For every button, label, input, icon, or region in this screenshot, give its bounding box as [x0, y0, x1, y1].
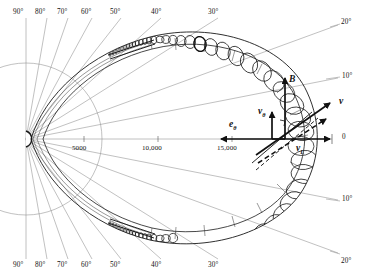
- angle-ray-50-top: [26, 18, 121, 139]
- angle-ray-40-bottom: [26, 139, 161, 259]
- angle-ray-80-bottom: [26, 139, 47, 259]
- angle-label-10-upper-right: 10°: [342, 72, 352, 80]
- angle-ray-70-top: [26, 18, 68, 139]
- bow-shock-polar-diagram: 90° 80° 70° 60° 50° 40° 30° 20° 10° 0 10…: [0, 0, 373, 277]
- vector-label-v-L: vL: [296, 143, 304, 155]
- angle-label-30-top: 30°: [208, 8, 218, 16]
- angle-label-90-top: 90°: [13, 8, 23, 16]
- vector-label-v-theta: vθ: [258, 106, 266, 118]
- radial-tick-label-10000: 10,000: [142, 144, 162, 152]
- angle-ray-50-bottom: [26, 139, 121, 259]
- angle-label-10-lower-right: 10°: [342, 195, 352, 203]
- vector-label-B: B: [289, 74, 295, 84]
- angle-label-70-top: 70°: [57, 8, 67, 16]
- angle-ray-20-bottom: [26, 139, 338, 253]
- angle-label-40-top: 40°: [151, 8, 161, 16]
- radial-tick-label-5000: 5000: [72, 144, 86, 152]
- angle-label-20-top: 20°: [341, 18, 351, 26]
- angle-label-0-right: 0: [342, 133, 346, 141]
- angle-label-80-bottom: 80°: [35, 261, 45, 269]
- angle-label-40-bottom: 40°: [151, 261, 161, 269]
- angle-label-20-bottom: 20°: [341, 257, 351, 265]
- angle-label-80-top: 80°: [35, 8, 45, 16]
- angle-label-90-bottom: 90°: [13, 261, 23, 269]
- vector-label-e-theta: eθ: [229, 119, 237, 131]
- angle-ray-30-bottom: [26, 139, 218, 259]
- angle-label-50-top: 50°: [110, 8, 120, 16]
- angle-label-30-bottom: 30°: [208, 261, 218, 269]
- angle-ray-80-top: [26, 18, 47, 139]
- angle-ray-60-top: [26, 18, 92, 139]
- vector-label-e-theta-sub: θ: [233, 124, 236, 131]
- angle-ray-40-top: [26, 18, 161, 139]
- vector-label-v-L-sub: L: [300, 148, 304, 155]
- right-angle-tick: [280, 120, 285, 126]
- angle-label-70-bottom: 70°: [57, 261, 67, 269]
- angle-label-60-top: 60°: [81, 8, 91, 16]
- diagram-canvas: [0, 0, 373, 277]
- vector-v-arrow: [256, 103, 330, 155]
- vector-label-v: v: [339, 96, 343, 106]
- vector-label-v-theta-sub: θ: [262, 111, 265, 118]
- angle-label-50-bottom: 50°: [110, 261, 120, 269]
- angle-ray-70-bottom: [26, 139, 68, 259]
- radial-tick-label-15000: 15,000: [217, 144, 237, 152]
- angle-label-60-bottom: 60°: [81, 261, 91, 269]
- shell-inner-boundary: [43, 44, 305, 232]
- angle-ray-30-top: [26, 18, 218, 139]
